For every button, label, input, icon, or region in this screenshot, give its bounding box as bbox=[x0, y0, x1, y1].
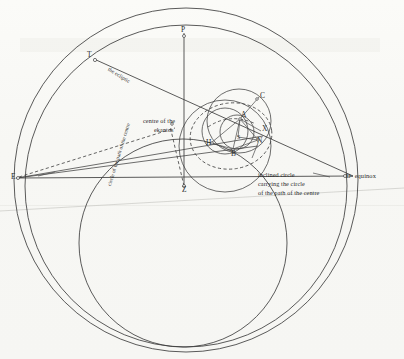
outer-sphere-circle bbox=[14, 8, 358, 352]
line-E-to-cluster bbox=[17, 136, 263, 178]
annotation-inclined-circle-line2: carrying the circle bbox=[258, 180, 305, 188]
scan-line bbox=[0, 188, 404, 211]
point-label-B: B bbox=[231, 150, 236, 158]
line-A-to-N bbox=[240, 119, 258, 140]
node-C bbox=[256, 98, 259, 101]
axis-E-D bbox=[16, 176, 353, 178]
annotation-centre-of-ekantos-line1: centre of the bbox=[143, 118, 175, 125]
node-P bbox=[183, 35, 186, 38]
node-T bbox=[93, 58, 96, 61]
node-E bbox=[17, 177, 20, 180]
point-label-N: N bbox=[257, 137, 262, 145]
point-label-H: H bbox=[206, 139, 211, 147]
point-label-A: A bbox=[241, 111, 246, 119]
annotation-centre-of-ekantos-line2: ekantos bbox=[154, 127, 174, 134]
diagram-svg: .ink { fill:none; stroke:#3d3d3d; stroke… bbox=[0, 0, 404, 359]
annotation-inclined-circle-line1: inclined circle bbox=[258, 171, 295, 179]
point-label-P: P bbox=[181, 26, 185, 34]
diagram-page: .ink { fill:none; stroke:#3d3d3d; stroke… bbox=[0, 0, 404, 359]
point-label-E: E bbox=[11, 173, 16, 181]
point-label-X: X bbox=[262, 125, 267, 133]
line-A-to-X bbox=[240, 119, 261, 131]
point-label-Z: Z bbox=[182, 186, 187, 194]
line-E-to-cluster-2 bbox=[17, 146, 258, 178]
point-label-C: C bbox=[260, 92, 265, 100]
point-label-S: S bbox=[237, 134, 240, 141]
dashed-line-E-to-ekantos bbox=[19, 128, 175, 177]
point-label-T: T bbox=[87, 51, 92, 59]
annotation-inclined-circle-line3: of the path of the centre bbox=[258, 189, 319, 197]
point-label-D-equinox: D- equinox bbox=[346, 172, 376, 179]
